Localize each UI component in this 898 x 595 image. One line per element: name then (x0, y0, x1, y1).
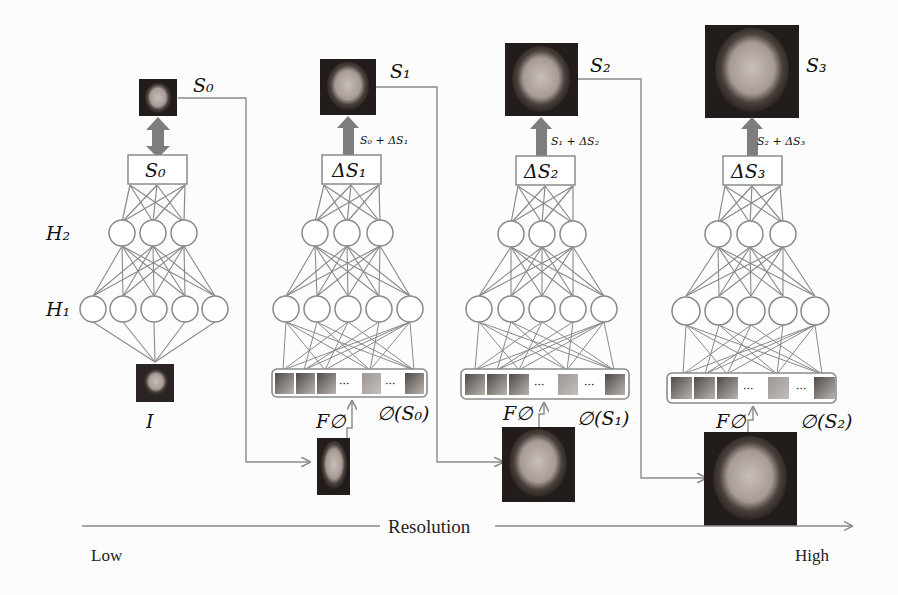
update-formula-s1: S₀ + ΔS₁ (360, 134, 408, 147)
ellipsis: ··· (339, 378, 350, 391)
output-label-s0: S₀ (193, 74, 214, 96)
feature-label-f-phi: F∅ (502, 402, 534, 424)
connections-features-to-h1 (683, 325, 822, 374)
feature-strip-phi-s1: ··· ··· (461, 369, 629, 399)
connections-h2-to-box (315, 185, 380, 222)
phi-label-s2: ∅(S₂) (800, 410, 852, 432)
box-label-delta-s1: ΔS₁ (331, 159, 366, 181)
connections-h2-to-box (718, 186, 783, 223)
output-label-s2: S₂ (590, 54, 611, 76)
face-image-s1-output (320, 59, 376, 115)
ellipsis: ··· (385, 378, 396, 391)
hidden-layer-h2 (498, 221, 586, 247)
stage-0: S₀ S₀ H₂ H₁ (45, 74, 228, 432)
connections-h1-to-h2 (93, 246, 215, 296)
face-image-s1-landmarks (502, 427, 575, 502)
box-label-delta-s2: ΔS₂ (523, 160, 558, 182)
feature-arrow (347, 401, 352, 441)
feature-arrow (539, 403, 544, 428)
feature-arrow (748, 407, 753, 432)
update-arrow-icon (337, 116, 359, 155)
hidden-layer-h2 (302, 220, 393, 246)
axis-label-low: Low (91, 546, 123, 565)
face-image-s2-output (505, 43, 578, 116)
ellipsis: ··· (534, 379, 545, 392)
connections-features-to-h1 (283, 322, 414, 370)
box-label-s0: S₀ (145, 159, 166, 181)
update-formula-s2: S₁ + ΔS₂ (551, 135, 599, 148)
ellipsis: ··· (743, 383, 754, 396)
hidden-layer-h1 (273, 296, 423, 322)
face-image-s2-landmarks (704, 432, 797, 526)
ellipsis: ··· (584, 379, 595, 392)
feature-label-f-phi: F∅ (315, 410, 347, 432)
axis-label-resolution: Resolution (388, 516, 471, 537)
output-label-s1: S₁ (390, 60, 411, 82)
connections-h1-to-h2 (286, 246, 410, 296)
hidden-layer-h1 (466, 296, 617, 322)
output-label-s3: S₃ (806, 54, 827, 76)
connector-s0-to-stage1 (178, 98, 310, 462)
layer-label-h2: H₂ (45, 222, 70, 244)
update-formula-s3: S₂ + ΔS₃ (757, 135, 805, 148)
update-arrow-icon (530, 117, 552, 156)
bidirectional-arrow-icon (146, 117, 170, 158)
feature-label-f-phi: F∅ (715, 410, 747, 432)
ellipsis: ··· (796, 383, 807, 396)
hidden-layer-h2 (705, 221, 796, 247)
feature-strip-phi-s0: ··· ··· (272, 369, 427, 397)
feature-strip-phi-s2: ··· ··· (667, 373, 836, 403)
cascade-cnn-diagram: S₀ S₀ H₂ H₁ (0, 0, 898, 595)
input-label-i: I (145, 410, 154, 432)
connections-features-to-h1 (475, 322, 614, 370)
connections-h2-to-box (511, 186, 573, 223)
stage-1: S₁ S₀ + ΔS₁ ΔS₁ (272, 59, 429, 495)
connections-h2-to-box (122, 185, 185, 222)
hidden-layer-h1 (80, 296, 228, 322)
stage-3: S₃ S₂ + ΔS₃ ΔS₃ (667, 25, 852, 526)
connections-h1-to-h2 (479, 247, 604, 296)
phi-label-s1: ∅(S₁) (577, 407, 629, 429)
face-image-input (136, 364, 174, 402)
connections-h1-to-h2 (686, 247, 815, 296)
connections-input-to-h1 (93, 322, 215, 362)
face-image-s3-output (705, 25, 799, 118)
axis-label-high: High (795, 546, 830, 565)
face-image-s0-landmarks (317, 438, 350, 495)
hidden-layer-h2 (109, 220, 197, 246)
stage-2: S₂ S₁ + ΔS₂ ΔS₂ (461, 43, 629, 502)
box-label-delta-s3: ΔS₃ (730, 160, 765, 182)
face-image-s0-output (139, 79, 177, 116)
hidden-layer-h1 (672, 297, 829, 325)
layer-label-h1: H₁ (45, 298, 70, 320)
phi-label-s0: ∅(S₀) (377, 402, 429, 424)
